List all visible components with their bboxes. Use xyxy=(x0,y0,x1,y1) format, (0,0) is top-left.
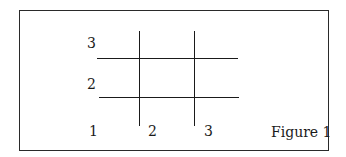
x-label-1: 1 xyxy=(89,124,98,138)
figure-caption: Figure 1 xyxy=(271,125,332,139)
grid-line-vertical-right xyxy=(194,31,195,126)
grid-line-horizontal-bottom xyxy=(99,97,239,98)
grid-line-horizontal-top xyxy=(97,58,238,59)
y-label-3: 3 xyxy=(87,36,96,50)
x-label-2: 2 xyxy=(148,124,157,138)
y-label-2: 2 xyxy=(87,77,96,91)
x-label-3: 3 xyxy=(204,124,213,138)
grid-line-vertical-left xyxy=(139,31,140,126)
